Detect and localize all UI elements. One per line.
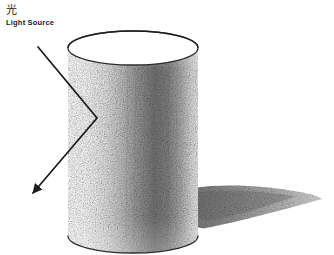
sketch-canvas: 光 Light Source [0,0,334,255]
cylinder-body-shading [66,40,200,255]
shaded-cylinder [66,31,200,255]
light-source-label: 光 Light Source [6,5,54,26]
light-source-kanji: 光 [6,5,54,17]
figure-drawing [0,0,334,255]
cast-shadow [189,185,322,228]
light-source-english: Light Source [6,19,54,27]
